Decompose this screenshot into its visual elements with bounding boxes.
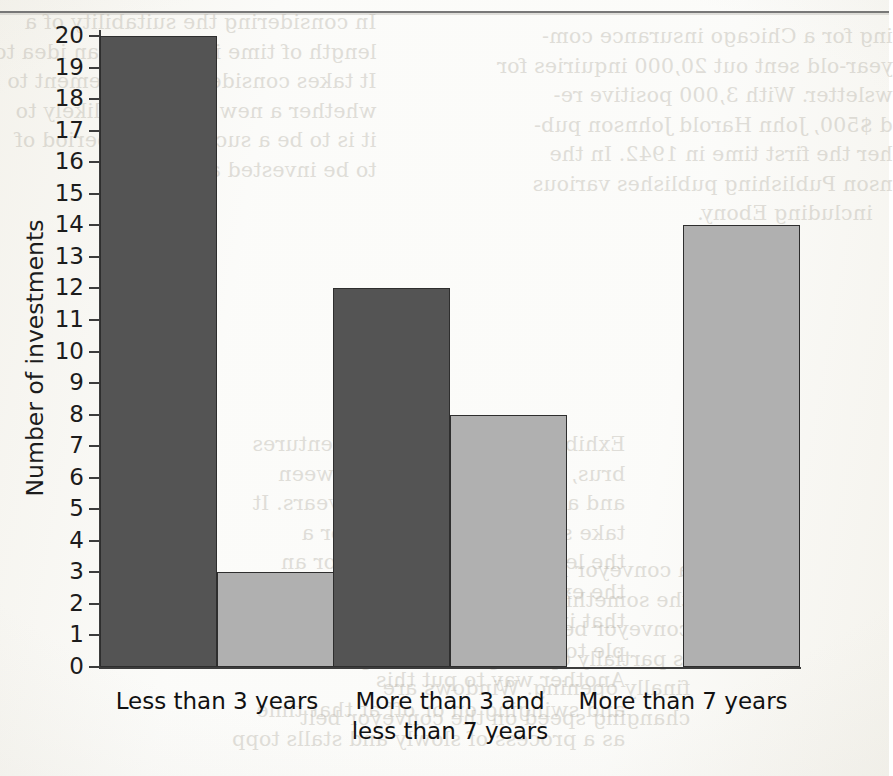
y-axis-tick-label: 12: [40, 276, 84, 299]
y-axis-tick-label: 14: [40, 213, 84, 236]
bar-light-series-1: [450, 415, 567, 667]
y-axis-tick-label: 11: [40, 308, 84, 331]
bar-dark-series-0: [100, 36, 217, 667]
y-axis-tick-label: 13: [40, 245, 84, 268]
bar-dark-series-1: [333, 288, 450, 667]
y-axis-tick-label: 6: [40, 466, 84, 489]
y-axis-tick-label: 5: [40, 497, 84, 520]
y-axis-tick-label: 8: [40, 403, 84, 426]
y-axis-tick-label: 0: [40, 655, 84, 678]
y-axis-tick-labels: 01234567891011121314151617181920: [28, 0, 84, 776]
y-axis-tick-label: 17: [40, 119, 84, 142]
bar-light-series-2: [683, 225, 800, 667]
y-axis-tick-label: 4: [40, 529, 84, 552]
x-axis-category-label: More than 7 years: [533, 686, 833, 716]
y-axis-tick-label: 9: [40, 371, 84, 394]
y-axis-tick-label: 16: [40, 150, 84, 173]
x-axis-line: [99, 667, 801, 669]
y-axis-tick-label: 18: [40, 87, 84, 110]
y-axis-tick-label: 10: [40, 340, 84, 363]
y-axis-tick-label: 1: [40, 623, 84, 646]
y-axis-tick-label: 20: [40, 24, 84, 47]
y-axis-tick-label: 7: [40, 434, 84, 457]
y-axis-tick-label: 3: [40, 560, 84, 583]
bar-light-series-0: [217, 572, 334, 667]
y-axis-tick-label: 2: [40, 592, 84, 615]
y-axis-tick-label: 15: [40, 182, 84, 205]
y-axis-tick-label: 19: [40, 56, 84, 79]
